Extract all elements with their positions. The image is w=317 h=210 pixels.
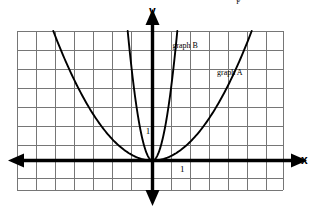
x-unit-mark-label: 1 <box>180 165 185 174</box>
graph-figure: y x graph B graph A 1 1 F <box>0 0 317 210</box>
curve-label-graph-a: graph A <box>217 69 243 77</box>
x-axis-label: x <box>301 154 308 166</box>
point-f-label: F <box>236 0 240 6</box>
curve-label-graph-b: graph B <box>172 42 198 50</box>
coordinate-plane <box>0 0 317 210</box>
y-unit-mark-label: 1 <box>146 127 151 136</box>
y-axis-label: y <box>149 5 156 17</box>
